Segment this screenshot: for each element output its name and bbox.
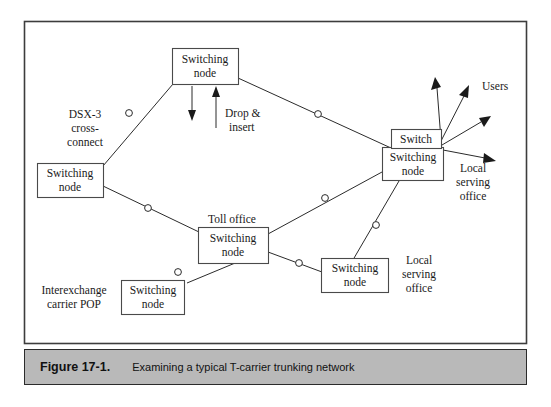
annotation-line1: Local [460, 162, 486, 174]
repeater-icon [373, 222, 380, 229]
repeater-icon [145, 205, 152, 212]
user-arrow-head-icon [459, 85, 469, 98]
node-label-line2: node [402, 165, 424, 177]
repeater-icon [315, 111, 322, 118]
node-switching-left[interactable]: Switching node [38, 164, 104, 198]
node-label-line1: Switching [210, 232, 257, 245]
repeater-icon [296, 260, 303, 267]
annotation-line1: Toll office [208, 213, 256, 225]
node-label-line1: Switching [390, 151, 437, 164]
repeater-icon [175, 269, 182, 276]
annotation-line2: insert [229, 121, 255, 133]
link-toll-to-switchnode [268, 172, 382, 234]
figure-caption-text: Examining a typical T-carrier trunking n… [132, 361, 354, 373]
annotation-line1: Users [482, 80, 509, 92]
node-label-line2: node [222, 246, 244, 258]
annotation-line2: serving [456, 176, 490, 189]
node-label-line2: node [344, 276, 366, 288]
drop-arrow-head-icon [188, 110, 196, 121]
node-label-line1: Switching [47, 167, 94, 180]
repeater-icon [126, 110, 133, 117]
user-arrow-head-icon [479, 116, 491, 127]
repeater-icon [322, 195, 329, 202]
link-toll-to-lso-lower [268, 252, 322, 272]
network-diagram: Switching node Switching node Switching … [0, 0, 551, 407]
annotation-drop-insert: Drop & insert [225, 107, 261, 133]
node-label-line2: node [59, 181, 81, 193]
user-arrow-line-4 [443, 150, 485, 158]
node-label-line2: node [194, 67, 216, 79]
figure-caption-bar: Figure 17-1. Examining a typical T-carri… [24, 349, 527, 385]
annotation-local-serving-office-upper: Local serving office [456, 162, 490, 202]
annotation-line1: DSX-3 [69, 108, 102, 120]
annotation-line1: Interexchange [41, 284, 106, 297]
annotation-line3: office [460, 190, 487, 202]
node-switching-iec-pop[interactable]: Switching node [122, 281, 185, 315]
user-arrow-head-icon [431, 77, 441, 90]
node-label-line1: Switch [400, 133, 432, 145]
node-switching-toll-office[interactable]: Switching node [199, 228, 269, 264]
insert-arrow-head-icon [212, 86, 220, 97]
node-label-line2: node [142, 298, 164, 310]
figure-container: Switching node Switching node Switching … [0, 0, 551, 407]
user-arrow-line-3 [442, 122, 481, 145]
annotation-line3: office [406, 282, 433, 294]
annotation-interexchange-carrier-pop: Interexchange carrier POP [41, 284, 106, 310]
annotation-line1: Drop & [225, 107, 261, 120]
link-left-to-top [103, 84, 173, 166]
annotation-dsx3-cross-connect: DSX-3 cross- connect [67, 108, 104, 148]
annotation-line3: connect [67, 136, 104, 148]
drop-insert-arrows [188, 86, 220, 128]
node-switching-lso-lower[interactable]: Switching node [322, 259, 389, 293]
node-switch[interactable]: Switch [392, 130, 442, 149]
figure-number: Figure 17-1. [40, 360, 110, 374]
annotation-line2: carrier POP [47, 298, 101, 310]
annotation-local-serving-office-lower: Local serving office [402, 254, 436, 294]
node-label-line1: Switching [332, 262, 379, 275]
node-switching-top[interactable]: Switching node [173, 49, 239, 85]
annotation-toll-office: Toll office [208, 213, 256, 225]
node-label-line1: Switching [182, 53, 229, 66]
annotation-line2: cross- [71, 122, 99, 134]
annotation-line1: Local [406, 254, 432, 266]
node-switching-right[interactable]: Switching node [383, 148, 444, 181]
node-label-line1: Switching [130, 284, 177, 297]
annotation-users: Users [482, 80, 509, 92]
annotation-line2: serving [402, 268, 436, 281]
